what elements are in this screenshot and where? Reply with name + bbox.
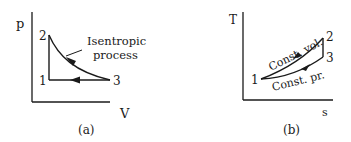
pv-annotation-line1: Isentropic: [87, 34, 146, 48]
cycle-diagrams: p V 2 1 3 Isentropic process (a) T s: [0, 0, 351, 142]
pv-diagram: p V 2 1 3 Isentropic process (a): [16, 12, 146, 137]
pv-point-2-label: 2: [39, 29, 47, 43]
pv-y-axis-label: p: [16, 16, 24, 31]
ts-point-2-label: 2: [326, 30, 334, 44]
pv-annotation-line2: process: [93, 48, 138, 62]
pv-arrow-3-1-icon: [70, 77, 80, 84]
ts-x-axis-label: s: [322, 106, 328, 119]
ts-diagram: T s 1 2 3 Const. vol. Const. pr. (b): [229, 12, 334, 137]
pv-caption: (a): [78, 123, 95, 137]
ts-arrow-3-1-icon: [301, 64, 310, 71]
ts-y-axis-label: T: [229, 13, 237, 27]
pv-point-1-label: 1: [39, 74, 47, 88]
ts-point-1-label: 1: [251, 73, 259, 87]
ts-caption: (b): [283, 123, 300, 137]
pv-point-3-label: 3: [113, 74, 121, 88]
ts-point-3-label: 3: [326, 51, 334, 65]
ts-upper-curve-label: Const. vol.: [266, 35, 325, 73]
pv-annotation-leader: [66, 50, 82, 56]
pv-x-axis-label: V: [119, 106, 130, 121]
pv-arrow-2-3-icon: [66, 57, 76, 66]
ts-lower-curve-label: Const. pr.: [271, 68, 326, 94]
